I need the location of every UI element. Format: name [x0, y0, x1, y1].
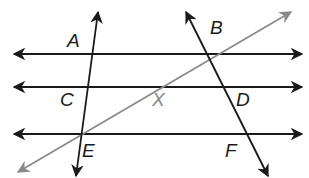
label-f: F: [225, 140, 238, 161]
label-e: E: [82, 140, 95, 161]
geometry-diagram: A B C X D E F: [0, 0, 309, 178]
label-x: X: [151, 89, 166, 110]
label-d: D: [236, 89, 250, 110]
label-b: B: [210, 17, 223, 38]
diagram-canvas: A B C X D E F: [0, 0, 309, 178]
label-c: C: [60, 89, 74, 110]
label-a: A: [66, 30, 80, 51]
